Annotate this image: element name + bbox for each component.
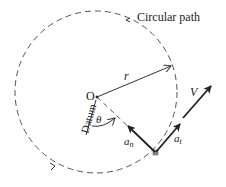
velocity-label: V [190,85,199,99]
circular-motion-diagram: Circular path O r θ Datum V an at [0,0,226,187]
normal-acceleration-label: an [124,135,134,149]
origin-label: O [86,89,95,103]
path-direction-arrow-top [126,18,130,22]
radius-label: r [124,69,129,83]
theta-label: θ [96,113,102,125]
circular-path-label: Circular path [137,10,200,24]
tangential-acceleration-label: at [174,132,183,146]
path-direction-arrow-bottom [50,163,55,170]
radius-line [97,66,171,97]
